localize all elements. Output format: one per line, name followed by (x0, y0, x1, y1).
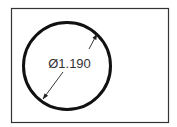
drawing-canvas: Ø1.190 (0, 0, 177, 127)
diameter-dimension-label: Ø1.190 (48, 56, 91, 71)
